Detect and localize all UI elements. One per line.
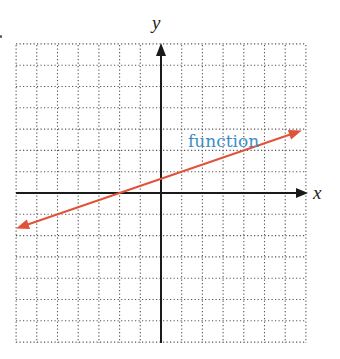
graph-svg xyxy=(0,0,340,359)
y-axis-label: y xyxy=(152,12,160,34)
function-label: function xyxy=(188,131,259,151)
corner-mark xyxy=(0,35,2,38)
coordinate-plane: y x function xyxy=(0,0,340,359)
x-axis-label: x xyxy=(313,182,321,204)
